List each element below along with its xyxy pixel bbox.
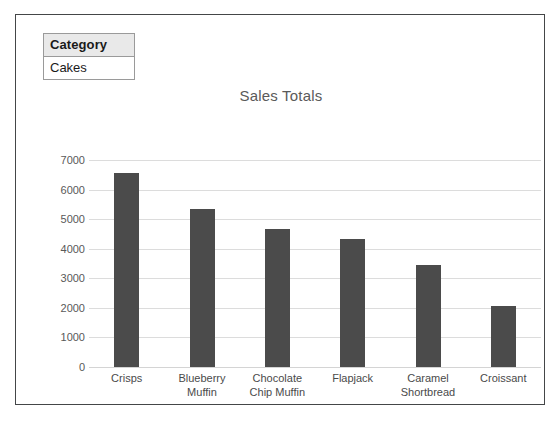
y-axis-tick-label: 4000	[39, 243, 85, 255]
y-axis-tick-label: 7000	[39, 154, 85, 166]
x-axis-tick-label: CaramelShortbread	[390, 372, 465, 412]
gridline	[89, 190, 541, 191]
chart-title: Sales Totals	[16, 87, 546, 104]
y-axis-tick-label: 5000	[39, 213, 85, 225]
gridline	[89, 160, 541, 161]
y-axis-tick-label: 2000	[39, 302, 85, 314]
y-axis-tick-label: 6000	[39, 184, 85, 196]
chart-plot-area: 70006000500040003000200010000	[89, 160, 541, 367]
x-axis-tick-label: Flapjack	[315, 372, 390, 412]
gridline	[89, 249, 541, 250]
category-filter-selected-value[interactable]: Cakes	[44, 57, 134, 79]
report-canvas: Category Cakes Sales Totals 700060005000…	[0, 0, 560, 422]
bar[interactable]	[190, 209, 215, 367]
x-axis-tick-label: BlueberryMuffin	[164, 372, 239, 412]
sales-totals-bar-chart: Sales Totals 700060005000400030002000100…	[16, 87, 546, 404]
gridline	[89, 278, 541, 279]
bar[interactable]	[340, 239, 365, 367]
category-filter-slicer[interactable]: Category Cakes	[43, 33, 135, 80]
bar[interactable]	[491, 306, 516, 368]
gridline	[89, 367, 541, 368]
bar[interactable]	[114, 173, 139, 367]
x-axis-tick-label: Crisps	[89, 372, 164, 412]
gridline	[89, 337, 541, 338]
bar[interactable]	[265, 229, 290, 367]
report-frame: Category Cakes Sales Totals 700060005000…	[15, 14, 545, 405]
y-axis-tick-label: 0	[39, 361, 85, 373]
x-axis-tick-label: Croissant	[466, 372, 541, 412]
chart-x-axis: CrispsBlueberryMuffinChocolateChip Muffi…	[89, 372, 541, 412]
bar[interactable]	[416, 265, 441, 367]
y-axis-tick-label: 3000	[39, 272, 85, 284]
y-axis-tick-label: 1000	[39, 331, 85, 343]
gridline	[89, 219, 541, 220]
category-filter-header: Category	[44, 34, 134, 57]
x-axis-tick-label: ChocolateChip Muffin	[240, 372, 315, 412]
gridline	[89, 308, 541, 309]
